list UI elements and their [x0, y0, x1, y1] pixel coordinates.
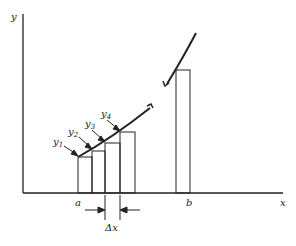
- delta-x-indicator: [85, 195, 140, 220]
- rectangles-left: [78, 132, 135, 193]
- curve-lower: [78, 108, 150, 157]
- ordinate-label-y4: y4: [100, 108, 111, 121]
- x-axis-label: x: [280, 197, 286, 208]
- rectangle-3: [105, 143, 120, 193]
- ordinate-label-y3: y3: [84, 118, 96, 131]
- ordinate-label-y1: y1: [52, 136, 63, 149]
- curve-upper: [167, 33, 196, 84]
- delta-x-label: Δx: [104, 222, 118, 233]
- rectangle-2: [92, 151, 105, 193]
- curve-break-lower: [147, 104, 153, 108]
- ordinate-label-y2: y2: [67, 126, 79, 139]
- axes: [23, 14, 283, 193]
- riemann-sum-diagram: y x a b Δx y1 y2 y3 y4: [0, 0, 296, 246]
- rectangle-b: [176, 70, 190, 193]
- rectangle-1: [78, 157, 92, 193]
- rectangle-4: [120, 132, 135, 193]
- y-axis-label: y: [10, 11, 17, 22]
- interval-end-label: b: [186, 197, 192, 208]
- interval-start-label: a: [75, 197, 81, 208]
